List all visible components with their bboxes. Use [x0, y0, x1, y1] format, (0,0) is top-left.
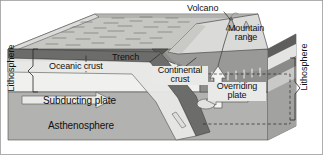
label-mountain-range: Mountain range [216, 24, 276, 43]
ocean-far-edge-shadow [95, 14, 258, 18]
label-asthenosphere: Asthenosphere [48, 121, 114, 131]
diagram-canvas: Volcano Mountain range Trench Oceanic cr… [0, 0, 323, 155]
label-trench: Trench [112, 53, 139, 62]
label-overriding-plate: Overriding plate [208, 82, 266, 101]
label-lithosphere-right: Lithosphere [299, 35, 309, 99]
label-lithosphere-left: Lithosphere [6, 36, 16, 100]
label-subducting-plate: Subducting plate [43, 96, 116, 106]
label-overriding-plate-line2: plate [210, 91, 264, 100]
label-mountain-range-line2: range [216, 33, 276, 42]
label-oceanic-crust: Oceanic crust [47, 62, 105, 71]
label-continental-crust-line2: crust [154, 75, 206, 84]
label-volcano: Volcano [187, 4, 218, 13]
label-continental-crust: Continental crust [152, 66, 208, 85]
